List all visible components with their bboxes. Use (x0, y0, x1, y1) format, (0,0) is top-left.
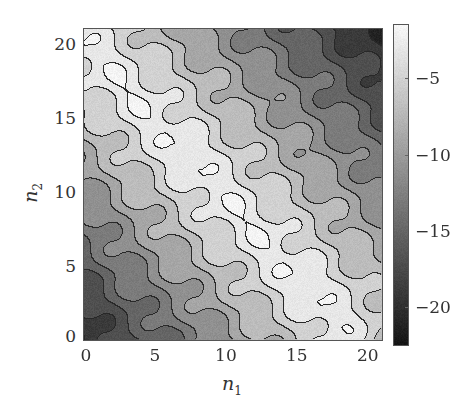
colorbar-tick-mark (405, 78, 408, 79)
y-tick-label: 20 (36, 35, 76, 52)
colorbar-tick-label: −15 (415, 222, 451, 239)
colorbar-tick-label: −10 (415, 146, 451, 163)
colorbar-tick-mark (405, 307, 408, 308)
contour-figure: 05101520 05101520 −5−10−15−20 n1 n2 (0, 0, 471, 415)
x-axis-label: n1 (222, 372, 242, 398)
y-tick-label: 15 (36, 109, 76, 126)
colorbar (394, 25, 408, 345)
y-tick-label: 0 (36, 328, 76, 345)
x-tick-label: 15 (286, 347, 308, 364)
x-tick-label: 5 (150, 347, 161, 364)
colorbar-tick-mark (405, 231, 408, 232)
colorbar-tick-mark (405, 155, 408, 156)
contour-plot-area (84, 29, 382, 340)
y-tick-label: 5 (36, 257, 76, 274)
x-tick-label: 0 (81, 347, 92, 364)
colorbar-tick-label: −5 (415, 70, 440, 87)
y-axis-label: n2 (19, 183, 45, 203)
colorbar-tick-label: −20 (415, 298, 451, 315)
x-tick-label: 10 (215, 347, 237, 364)
x-tick-label: 20 (357, 347, 379, 364)
